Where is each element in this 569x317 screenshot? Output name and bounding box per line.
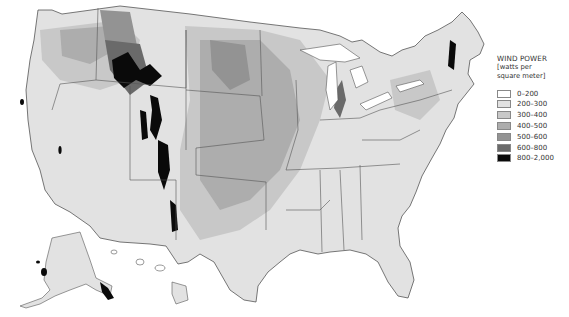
legend-label: 300–400	[517, 111, 547, 119]
legend-title: WIND POWER	[497, 54, 569, 63]
legend-swatch	[497, 111, 511, 119]
legend: WIND POWER [watts per square meter] 0–20…	[497, 54, 569, 164]
legend-swatch	[497, 122, 511, 130]
legend-subtitle-line1: [watts per	[497, 63, 569, 72]
legend-item: 800–2,000	[497, 153, 569, 164]
legend-item: 500–600	[497, 131, 569, 142]
legend-item: 0–200	[497, 88, 569, 99]
legend-item: 300–400	[497, 110, 569, 121]
legend-label: 200–300	[517, 100, 547, 108]
legend-label: 500–600	[517, 133, 547, 141]
legend-swatch	[497, 100, 511, 108]
legend-swatch	[497, 90, 511, 98]
legend-swatch	[497, 144, 511, 152]
wind-power-map	[0, 0, 569, 317]
legend-item: 400–500	[497, 121, 569, 132]
legend-label: 800–2,000	[517, 154, 554, 162]
legend-swatch	[497, 133, 511, 141]
legend-label: 600–800	[517, 144, 547, 152]
legend-label: 400–500	[517, 122, 547, 130]
legend-item: 200–300	[497, 99, 569, 110]
legend-items: 0–200 200–300 300–400 400–500 500–600 60…	[497, 88, 569, 164]
legend-swatch	[497, 154, 511, 162]
alaska	[20, 232, 112, 308]
legend-item: 600–800	[497, 142, 569, 153]
legend-label: 0–200	[517, 90, 538, 98]
legend-subtitle-line2: square meter]	[497, 72, 569, 81]
